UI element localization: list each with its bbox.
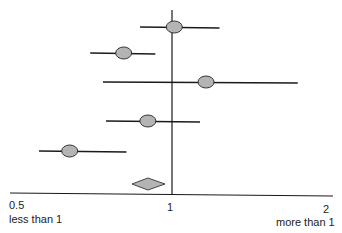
forest-plot [0, 0, 342, 233]
point-estimate-marker [198, 76, 214, 88]
ci-line [39, 151, 126, 152]
tick-label-0-5: 0.5 [9, 199, 24, 211]
point-estimate-marker [140, 115, 156, 127]
point-estimate-marker [62, 145, 78, 157]
tick-label-2: 2 [323, 203, 329, 215]
point-estimate-marker [116, 47, 132, 59]
more-than-label: more than 1 [276, 216, 335, 228]
point-estimate-marker [166, 21, 182, 33]
pooled-diamond [132, 178, 165, 190]
tick-label-1: 1 [167, 201, 173, 213]
less-than-label: less than 1 [9, 213, 62, 225]
